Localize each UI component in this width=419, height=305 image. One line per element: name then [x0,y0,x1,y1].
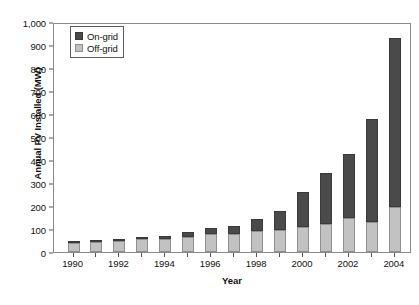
bar-group [228,22,240,252]
x-tick-mark [279,253,280,257]
x-tick-label: 1994 [154,258,175,269]
bar-segment-on-grid [343,154,355,218]
bar-segment-off-grid [343,218,355,252]
legend-item: On-grid [75,30,118,42]
legend-swatch-off-grid [75,44,83,52]
bar-segment-off-grid [113,241,125,253]
bar-segment-off-grid [389,207,401,252]
y-tick-label: 800 [30,64,46,75]
x-tick-mark [256,253,257,257]
y-tick-label: 700 [30,87,46,98]
bar-segment-on-grid [228,226,240,233]
bar-segment-on-grid [274,211,286,231]
bar-segment-off-grid [136,239,148,252]
y-tick-label: 300 [30,179,46,190]
y-axis-ticks: 01002003004005006007008009001,000 [0,0,52,305]
bar-group [182,22,194,252]
bar-segment-on-grid [159,236,171,239]
x-tick-mark [394,253,395,257]
x-tick-mark [164,253,165,257]
x-tick-mark [325,253,326,257]
y-tick-label: 500 [30,133,46,144]
y-tick-label: 0 [41,248,46,259]
x-tick-mark [302,253,303,257]
x-tick-mark [233,253,234,257]
x-tick-label: 2002 [338,258,359,269]
bar-segment-off-grid [182,237,194,252]
bar-segment-on-grid [366,119,378,223]
legend-swatch-on-grid [75,32,83,40]
bar-group [389,22,401,252]
bars-layer [54,24,410,252]
legend-label: Off-grid [87,43,118,54]
bar-group [136,22,148,252]
bar-segment-off-grid [274,230,286,252]
bar-group [343,22,355,252]
bar-segment-on-grid [136,237,148,239]
x-tick-mark [118,253,119,257]
bar-segment-on-grid [205,228,217,234]
bar-group [274,22,286,252]
y-tick-label: 100 [30,225,46,236]
x-tick-mark [141,253,142,257]
x-tick-mark [371,253,372,257]
legend-label: On-grid [87,31,118,42]
x-tick-mark [187,253,188,257]
x-tick-mark [348,253,349,257]
x-tick-label: 2004 [383,258,404,269]
bar-group [205,22,217,252]
y-tick-label: 200 [30,202,46,213]
bar-segment-on-grid [251,219,263,231]
bar-segment-off-grid [251,231,263,252]
y-tick-label: 400 [30,156,46,167]
bar-segment-on-grid [182,232,194,237]
x-tick-label: 1990 [62,258,83,269]
bar-segment-off-grid [159,239,171,252]
bar-segment-on-grid [90,240,102,242]
x-tick-label: 1998 [246,258,267,269]
legend-item: Off-grid [75,42,118,54]
x-tick-label: 1996 [200,258,221,269]
bar-segment-off-grid [297,227,309,252]
y-tick-label: 1,000 [23,18,46,29]
bar-segment-on-grid [113,239,125,241]
bar-segment-off-grid [228,234,240,252]
x-tick-mark [73,253,74,257]
y-tick-label: 900 [30,41,46,52]
bar-group [159,22,171,252]
x-tick-label: 2000 [292,258,313,269]
bar-group [320,22,332,252]
bar-segment-off-grid [320,224,332,252]
bar-segment-off-grid [366,222,378,252]
x-tick-label: 1992 [108,258,129,269]
y-tick-label: 600 [30,110,46,121]
pv-installed-bar-chart: Annual PV Installed (MW) 010020030040050… [0,0,419,305]
bar-segment-on-grid [389,38,401,207]
bar-segment-off-grid [205,234,217,252]
bar-group [366,22,378,252]
bar-segment-off-grid [90,242,102,252]
x-tick-mark [210,253,211,257]
bar-group [251,22,263,252]
bar-segment-on-grid [68,241,80,243]
chart-legend: On-gridOff-grid [70,26,124,58]
bar-group [297,22,309,252]
bar-segment-off-grid [68,243,80,252]
bar-segment-on-grid [320,173,332,224]
x-tick-mark [95,253,96,257]
bar-segment-on-grid [297,192,309,227]
x-axis-title: Year [53,275,411,286]
